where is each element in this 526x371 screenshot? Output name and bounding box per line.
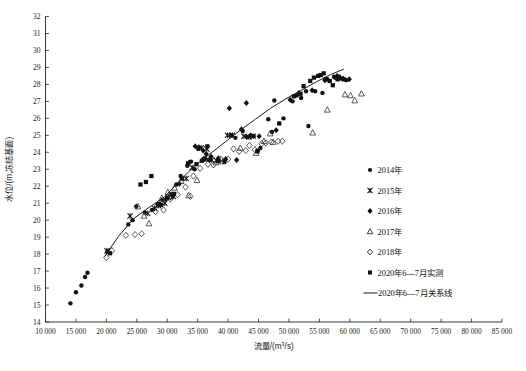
x-tick-label: 10 000 [35, 327, 56, 336]
y-tick-label: 24 [33, 148, 41, 157]
marker-filled-square [216, 159, 220, 163]
marker-filled-circle [85, 271, 89, 275]
y-axis-title: 水位/(m,冻结基面) [4, 137, 14, 202]
marker-filled-square [331, 83, 335, 87]
marker-filled-circle [368, 168, 372, 172]
marker-filled-square [144, 180, 148, 184]
y-tick-label: 25 [33, 131, 41, 140]
y-tick-label: 23 [33, 165, 41, 174]
marker-filled-square [277, 121, 281, 125]
y-tick-label: 16 [33, 284, 41, 293]
marker-filled-square [312, 75, 316, 79]
marker-filled-square [205, 144, 209, 148]
marker-filled-circle [304, 89, 308, 93]
marker-filled-square [172, 192, 176, 196]
marker-filled-square [308, 79, 312, 83]
legend-label: 2017年 [378, 227, 403, 237]
legend-label: 2018年 [378, 247, 403, 257]
marker-filled-square [149, 174, 153, 178]
y-tick-label: 31 [33, 29, 41, 38]
x-tick-label: 30 000 [157, 327, 178, 336]
stage-discharge-chart: 10 00015 00020 00025 00030 00035 00040 0… [0, 0, 526, 371]
y-tick-label: 29 [33, 63, 41, 72]
y-tick-label: 20 [33, 216, 41, 225]
y-tick-label: 15 [33, 301, 41, 310]
marker-filled-square [255, 149, 259, 153]
x-tick-label: 60 000 [340, 327, 361, 336]
x-tick-label: 70 000 [401, 327, 422, 336]
marker-filled-circle [281, 116, 285, 120]
marker-filled-square [186, 161, 190, 165]
marker-filled-circle [299, 96, 303, 100]
y-tick-label: 17 [33, 267, 41, 276]
x-tick-label: 40 000 [218, 327, 239, 336]
x-tick-label: 80 000 [461, 327, 482, 336]
chart-background [0, 0, 526, 371]
marker-filled-square [342, 77, 346, 81]
x-axis-title: 流量/(m3/s) [254, 341, 294, 351]
legend-label: 2015年 [378, 186, 403, 196]
marker-filled-circle [266, 117, 270, 121]
x-tick-label: 15 000 [66, 327, 87, 336]
marker-filled-circle [320, 91, 324, 95]
marker-filled-circle [79, 283, 83, 287]
marker-filled-square [165, 196, 169, 200]
y-tick-label: 30 [33, 46, 41, 55]
x-tick-label: 85 000 [492, 327, 513, 336]
marker-filled-square [222, 159, 226, 163]
x-tick-label: 55 000 [309, 327, 330, 336]
marker-filled-square [208, 158, 212, 162]
y-tick-label: 26 [33, 114, 41, 123]
marker-filled-square [368, 270, 372, 274]
y-tick-label: 22 [33, 182, 41, 191]
legend-label: 2020年6—7月实测 [378, 268, 444, 278]
marker-filled-circle [83, 275, 87, 279]
marker-filled-circle [272, 98, 276, 102]
y-tick-label: 21 [33, 199, 41, 208]
marker-filled-circle [74, 290, 78, 294]
marker-filled-square [328, 79, 332, 83]
y-tick-label: 27 [33, 97, 41, 106]
marker-filled-square [159, 203, 163, 207]
y-tick-label: 14 [33, 318, 41, 327]
y-tick-label: 19 [33, 233, 41, 242]
x-tick-label: 20 000 [96, 327, 117, 336]
x-tick-label: 45 000 [248, 327, 269, 336]
legend-label: 2016年 [378, 206, 403, 216]
legend-label: 2020年6—7月关系线 [378, 288, 453, 298]
marker-filled-square [298, 92, 302, 96]
y-tick-label: 28 [33, 80, 41, 89]
x-tick-label: 75 000 [431, 327, 452, 336]
marker-filled-square [138, 182, 142, 186]
y-tick-label: 32 [33, 12, 41, 21]
marker-filled-square [322, 71, 326, 75]
marker-filled-circle [306, 124, 310, 128]
x-tick-label: 65 000 [370, 327, 391, 336]
marker-filled-square [336, 77, 340, 81]
marker-filled-circle [68, 301, 72, 305]
y-tick-label: 18 [33, 250, 41, 259]
marker-filled-square [108, 251, 112, 255]
legend-item-5: 2020年6—7月实测 [368, 268, 443, 278]
x-tick-label: 25 000 [127, 327, 148, 336]
x-tick-label: 35 000 [188, 327, 209, 336]
legend-label: 2014年 [378, 165, 403, 175]
x-tick-label: 50 000 [279, 327, 300, 336]
